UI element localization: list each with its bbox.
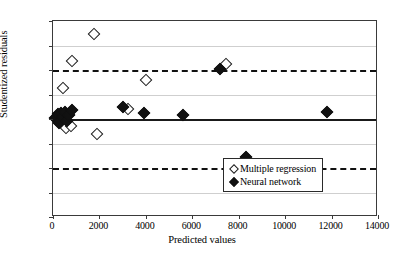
gridline	[53, 46, 376, 47]
chart-legend: Multiple regression Neural network	[223, 158, 323, 192]
x-tick-mark	[53, 215, 54, 219]
data-point-hollow-diamond	[65, 55, 78, 68]
data-point-hollow-diamond	[91, 127, 104, 140]
x-tick-mark	[99, 215, 100, 219]
data-point-filled-diamond	[137, 107, 150, 120]
data-point-hollow-diamond	[56, 82, 69, 95]
x-tick-label: 8000	[215, 220, 261, 231]
data-point-hollow-diamond	[87, 28, 100, 41]
x-tick-mark	[332, 215, 333, 219]
x-tick-mark	[192, 215, 193, 219]
lower-limit	[53, 168, 376, 170]
x-axis-label: Predicted values	[0, 234, 404, 245]
data-point-hollow-diamond	[139, 73, 152, 86]
hollow-diamond-icon	[228, 163, 240, 175]
y-tick-mark	[49, 144, 53, 145]
y-tick-mark	[49, 119, 53, 120]
x-tick-mark	[146, 215, 147, 219]
gridline	[53, 193, 376, 194]
legend-item-neural-network: Neural network	[228, 175, 316, 188]
x-tick-label: 10000	[261, 220, 307, 231]
x-tick-label: 2000	[75, 220, 121, 231]
legend-label: Multiple regression	[240, 163, 316, 175]
x-tick-label: 0	[29, 220, 75, 231]
x-tick-label: 12000	[308, 220, 354, 231]
gridline	[53, 95, 376, 96]
y-tick-mark	[49, 46, 53, 47]
x-tick-label: 6000	[168, 220, 214, 231]
legend-item-multiple-regression: Multiple regression	[228, 162, 316, 175]
legend-label: Neural network	[240, 176, 301, 188]
chart-figure: Studentized residuals -4-3-2-101234 0200…	[0, 0, 404, 261]
data-point-filled-diamond	[321, 105, 334, 118]
plot-area	[52, 20, 377, 216]
x-tick-mark	[285, 215, 286, 219]
zero-line	[53, 119, 376, 121]
x-tick-label: 4000	[122, 220, 168, 231]
y-tick-mark	[49, 21, 53, 22]
y-axis-label: Studentized residuals	[0, 31, 9, 118]
y-tick-mark	[49, 95, 53, 96]
y-tick-mark	[49, 70, 53, 71]
y-tick-mark	[49, 168, 53, 169]
x-tick-label: 14000	[354, 220, 400, 231]
y-tick-mark	[49, 193, 53, 194]
x-tick-mark	[239, 215, 240, 219]
x-tick-mark	[378, 215, 379, 219]
filled-diamond-icon	[228, 176, 240, 188]
gridline	[53, 144, 376, 145]
